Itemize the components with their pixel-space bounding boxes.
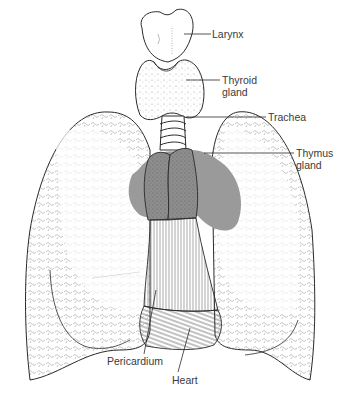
label-thymus-line2: gland <box>296 159 333 171</box>
label-thyroid-line2: gland <box>222 86 257 98</box>
label-trachea: Trachea <box>268 111 306 123</box>
left-lung <box>26 112 151 380</box>
label-thyroid-line1: Thyroid <box>222 74 257 86</box>
diagram-drawing <box>0 0 346 399</box>
label-larynx: Larynx <box>212 28 244 40</box>
pericardium <box>144 218 218 311</box>
trachea <box>160 116 186 150</box>
larynx <box>141 9 193 62</box>
label-thymus-line1: Thymus <box>296 147 333 159</box>
label-pericardium: Pericardium <box>107 355 163 367</box>
label-thyroid-gland: Thyroid gland <box>222 74 257 98</box>
label-heart: Heart <box>172 374 198 386</box>
anatomy-diagram: Larynx Thyroid gland Trachea Thymus glan… <box>0 0 346 399</box>
thyroid-gland <box>136 60 205 120</box>
label-thymus-gland: Thymus gland <box>296 147 333 171</box>
